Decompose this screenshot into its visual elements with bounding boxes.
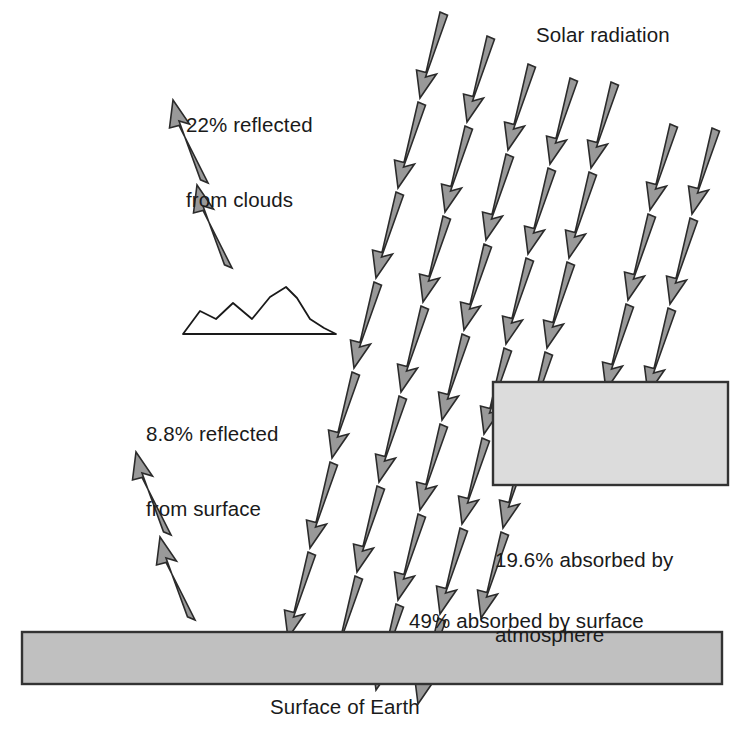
solar-radiation-diagram: 22% reflected from clouds Solar radiatio…	[0, 0, 745, 737]
surface-of-earth-caption: Surface of Earth	[270, 694, 420, 719]
solar-radiation-title: Solar radiation	[536, 22, 670, 47]
absorbed-by-surface-label: 49% absorbed by surface	[409, 608, 644, 633]
reflected-from-clouds-line2: from clouds	[186, 187, 313, 212]
reflected-from-clouds-line1: 22% reflected	[186, 112, 313, 137]
reflected-from-surface-label: 8.8% reflected from surface	[146, 371, 278, 571]
absorbed-by-atmosphere-line1: 19.6% absorbed by	[495, 547, 673, 572]
atmosphere-layer-icon	[493, 382, 728, 485]
cloud-icon	[183, 287, 336, 334]
reflected-from-surface-line2: from surface	[146, 496, 278, 521]
absorbed-by-atmosphere-label: 19.6% absorbed by atmosphere	[495, 497, 673, 697]
reflected-from-surface-line1: 8.8% reflected	[146, 421, 278, 446]
reflected-from-clouds-label: 22% reflected from clouds	[186, 62, 313, 262]
